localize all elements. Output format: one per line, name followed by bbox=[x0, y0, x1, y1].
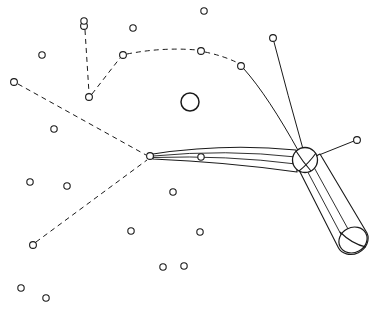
scatter-node bbox=[39, 52, 45, 58]
scatter-node bbox=[201, 8, 207, 14]
network-node-dashed-arc-apex bbox=[198, 48, 205, 55]
free-circle bbox=[181, 93, 199, 111]
network-node-tube-apex-hub bbox=[147, 153, 154, 160]
network-node-antenna-tip-right bbox=[354, 137, 361, 144]
network-node-branch-tip-lower-left bbox=[30, 242, 37, 249]
scatter-node bbox=[27, 179, 33, 185]
junction-sphere-group bbox=[293, 148, 318, 173]
scatter-node bbox=[128, 228, 134, 234]
network-node-dashed-to-solid bbox=[238, 63, 245, 70]
scatter-node bbox=[198, 154, 204, 160]
network-node-dashed-arc-vertex bbox=[120, 52, 127, 59]
network-node-dashed-vertex-lower bbox=[86, 94, 93, 101]
network-node-antenna-tip-upper bbox=[270, 35, 277, 42]
scatter-node bbox=[43, 295, 49, 301]
network-node-branch-tip-left bbox=[11, 79, 18, 86]
scatter-node bbox=[160, 264, 166, 270]
scatter-node bbox=[81, 18, 87, 24]
scatter-node bbox=[18, 285, 24, 291]
scatter-node bbox=[130, 25, 136, 31]
figure-canvas bbox=[0, 0, 373, 310]
scatter-node bbox=[64, 183, 70, 189]
scatter-node bbox=[170, 189, 176, 195]
line-art-diagram bbox=[0, 0, 373, 310]
scatter-node bbox=[181, 263, 187, 269]
scatter-node bbox=[197, 229, 203, 235]
scatter-node bbox=[51, 126, 57, 132]
